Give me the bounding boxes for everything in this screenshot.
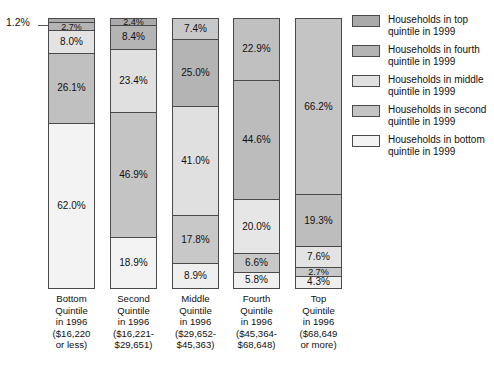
x-axis-label-line: Middle bbox=[164, 293, 227, 305]
plot-area: 1.2%2.7%8.0%26.1%62.0%2.4%8.4%23.4%46.9%… bbox=[48, 18, 342, 289]
segment-bottom-quintile-1996-2[interactable]: 8.0% bbox=[49, 31, 94, 53]
x-axis-label-line: Top bbox=[287, 293, 350, 305]
segment-value-label: 7.6% bbox=[307, 252, 330, 262]
segment-value-label: 7.4% bbox=[184, 24, 207, 34]
segment-fourth-quintile-1996-1[interactable]: 44.6% bbox=[234, 81, 279, 200]
legend-label: Households in topquintile in 1999 bbox=[388, 14, 468, 37]
segment-top-quintile-1996-0[interactable]: 66.2% bbox=[296, 19, 341, 195]
segment-top-quintile-1996-3[interactable]: 2.7% bbox=[296, 268, 341, 276]
x-axis-label-line: Quintile bbox=[164, 305, 227, 317]
x-axis-label-line: ($16,220 bbox=[40, 328, 103, 340]
legend-label-line: Households in second bbox=[388, 104, 486, 116]
legend-label-line: quintile in 1999 bbox=[388, 86, 484, 98]
segment-value-label: 8.0% bbox=[60, 37, 83, 47]
legend-label-line: Households in bottom bbox=[388, 134, 485, 146]
x-axis-label-middle-quintile-1996: MiddleQuintilein 1996($29,652-$45,363) bbox=[164, 293, 227, 351]
x-axis-label-line: ($45,364- bbox=[225, 328, 288, 340]
segment-value-label: 46.9% bbox=[119, 170, 147, 180]
segment-value-label: 26.1% bbox=[57, 83, 85, 93]
x-axis-label-line: in 1996 bbox=[102, 316, 165, 328]
legend-label-line: Households in middle bbox=[388, 74, 484, 86]
chart-legend: Households in topquintile in 1999Househo… bbox=[352, 14, 492, 164]
x-axis-label-line: Bottom bbox=[40, 293, 103, 305]
legend-fourth-quintile[interactable]: Households in fourthquintile in 1999 bbox=[352, 44, 492, 67]
bar-top-quintile-1996[interactable]: 66.2%19.3%7.6%2.7%4.3% bbox=[295, 18, 342, 289]
segment-value-label: 6.6% bbox=[245, 258, 268, 268]
segment-second-quintile-1996-3[interactable]: 46.9% bbox=[111, 113, 156, 238]
segment-value-label: 5.8% bbox=[245, 275, 268, 285]
callout-label: 1.2% bbox=[6, 16, 30, 28]
segment-value-label: 17.8% bbox=[181, 235, 209, 245]
segment-middle-quintile-1996-1[interactable]: 25.0% bbox=[173, 40, 218, 107]
bar-middle-quintile-1996[interactable]: 7.4%25.0%41.0%17.8%8.9% bbox=[172, 18, 219, 289]
segment-fourth-quintile-1996-3[interactable]: 6.6% bbox=[234, 254, 279, 273]
legend-label-line: quintile in 1999 bbox=[388, 116, 486, 128]
segment-bottom-quintile-1996-1[interactable]: 2.7% bbox=[49, 23, 94, 31]
segment-value-label: 44.6% bbox=[242, 135, 270, 145]
segment-value-label: 20.0% bbox=[242, 222, 270, 232]
x-axis-label-bottom-quintile-1996: BottomQuintilein 1996($16,220or less) bbox=[40, 293, 103, 351]
segment-bottom-quintile-1996-3[interactable]: 26.1% bbox=[49, 54, 94, 124]
segment-value-label: 8.4% bbox=[122, 32, 145, 42]
x-axis-label-line: or more) bbox=[287, 339, 350, 351]
legend-label: Households in middlequintile in 1999 bbox=[388, 74, 484, 97]
x-axis-label-line: Second bbox=[102, 293, 165, 305]
legend-label-line: quintile in 1999 bbox=[388, 26, 468, 38]
legend-label-line: quintile in 1999 bbox=[388, 56, 480, 68]
segment-middle-quintile-1996-4[interactable]: 8.9% bbox=[173, 264, 218, 288]
segment-value-label: 62.0% bbox=[57, 201, 85, 211]
legend-bottom-quintile[interactable]: Households in bottomquintile in 1999 bbox=[352, 134, 492, 157]
segment-value-label: 22.9% bbox=[242, 44, 270, 54]
x-axis-label-line: in 1996 bbox=[225, 316, 288, 328]
segment-top-quintile-1996-1[interactable]: 19.3% bbox=[296, 195, 341, 247]
legend-swatch-icon bbox=[352, 75, 380, 87]
segment-second-quintile-1996-0[interactable]: 2.4% bbox=[111, 19, 156, 26]
segment-value-label: 23.4% bbox=[119, 76, 147, 86]
x-axis-label-line: in 1996 bbox=[164, 316, 227, 328]
legend-label: Households in bottomquintile in 1999 bbox=[388, 134, 485, 157]
legend-swatch-icon bbox=[352, 105, 380, 117]
segment-second-quintile-1996-1[interactable]: 8.4% bbox=[111, 26, 156, 49]
segment-fourth-quintile-1996-0[interactable]: 22.9% bbox=[234, 19, 279, 81]
segment-value-label: 2.7% bbox=[308, 268, 329, 276]
legend-middle-quintile[interactable]: Households in middlequintile in 1999 bbox=[352, 74, 492, 97]
segment-value-label: 2.7% bbox=[61, 23, 82, 31]
x-axis-label-line: ($29,652- bbox=[164, 328, 227, 340]
x-axis-label-line: $45,363) bbox=[164, 339, 227, 351]
segment-value-label: 4.3% bbox=[307, 277, 330, 287]
legend-second-quintile[interactable]: Households in secondquintile in 1999 bbox=[352, 104, 492, 127]
bar-bottom-quintile-1996[interactable]: 1.2%2.7%8.0%26.1%62.0% bbox=[48, 18, 95, 289]
segment-top-quintile-1996-4[interactable]: 4.3% bbox=[296, 277, 341, 288]
x-axis-label-line: Fourth bbox=[225, 293, 288, 305]
x-axis-label-line: Quintile bbox=[40, 305, 103, 317]
segment-fourth-quintile-1996-4[interactable]: 5.8% bbox=[234, 273, 279, 288]
segment-value-label: 2.4% bbox=[123, 19, 144, 26]
x-axis-label-line: or less) bbox=[40, 339, 103, 351]
legend-top-quintile[interactable]: Households in topquintile in 1999 bbox=[352, 14, 492, 37]
segment-middle-quintile-1996-2[interactable]: 41.0% bbox=[173, 107, 218, 217]
segment-value-label: 25.0% bbox=[181, 68, 209, 78]
segment-bottom-quintile-1996-4[interactable]: 62.0% bbox=[49, 124, 94, 288]
segment-middle-quintile-1996-3[interactable]: 17.8% bbox=[173, 216, 218, 264]
segment-value-label: 41.0% bbox=[181, 156, 209, 166]
x-axis-label-line: Quintile bbox=[287, 305, 350, 317]
stacked-bar-chart: 1.2% 1.2%2.7%8.0%26.1%62.0%2.4%8.4%23.4%… bbox=[0, 0, 494, 380]
segment-value-label: 18.9% bbox=[119, 258, 147, 268]
x-axis-label-line: Quintile bbox=[102, 305, 165, 317]
segment-top-quintile-1996-2[interactable]: 7.6% bbox=[296, 247, 341, 268]
x-axis-label-line: ($16,221- bbox=[102, 328, 165, 340]
x-axis-label-line: in 1996 bbox=[287, 316, 350, 328]
legend-label-line: quintile in 1999 bbox=[388, 146, 485, 158]
segment-second-quintile-1996-2[interactable]: 23.4% bbox=[111, 50, 156, 113]
segment-fourth-quintile-1996-2[interactable]: 20.0% bbox=[234, 200, 279, 254]
x-axis-label-second-quintile-1996: SecondQuintilein 1996($16,221-$29,651) bbox=[102, 293, 165, 351]
bar-fourth-quintile-1996[interactable]: 22.9%44.6%20.0%6.6%5.8% bbox=[233, 18, 280, 289]
segment-value-label: 19.3% bbox=[304, 216, 332, 226]
legend-label: Households in secondquintile in 1999 bbox=[388, 104, 486, 127]
segment-value-label: 66.2% bbox=[304, 102, 332, 112]
x-axis-label-line: $29,651) bbox=[102, 339, 165, 351]
bar-second-quintile-1996[interactable]: 2.4%8.4%23.4%46.9%18.9% bbox=[110, 18, 157, 289]
segment-second-quintile-1996-4[interactable]: 18.9% bbox=[111, 238, 156, 288]
segment-middle-quintile-1996-0[interactable]: 7.4% bbox=[173, 19, 218, 40]
legend-label-line: Households in fourth bbox=[388, 44, 480, 56]
